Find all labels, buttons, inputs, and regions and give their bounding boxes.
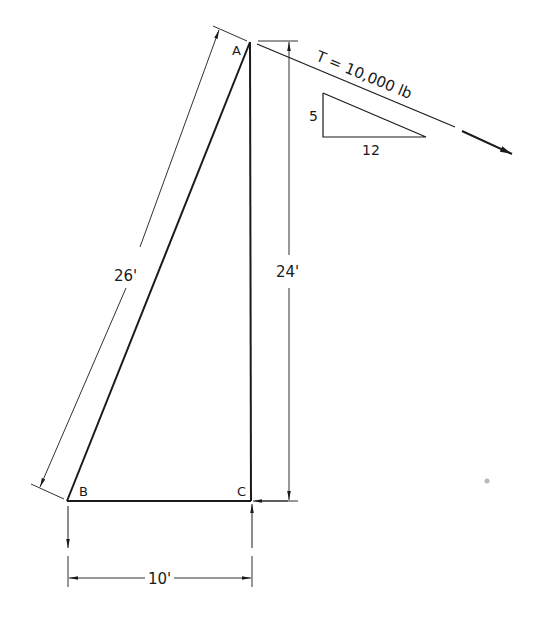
dimension-26ft bbox=[31, 26, 247, 499]
dimension-26-label: 26' bbox=[114, 267, 137, 285]
force-line bbox=[257, 44, 455, 127]
member-ab bbox=[67, 42, 250, 501]
slope-triangle bbox=[323, 93, 426, 137]
force-arrow bbox=[462, 131, 512, 154]
point-a-label: A bbox=[232, 43, 241, 58]
truss-members bbox=[67, 42, 251, 501]
dimension-10-label: 10' bbox=[148, 570, 171, 588]
truss-diagram: T = 10,000 lb 5 12 A B C 26' 24' 10' bbox=[0, 0, 543, 622]
reactions bbox=[68, 504, 252, 548]
slope-run-label: 12 bbox=[362, 142, 380, 158]
smudge-mark bbox=[485, 479, 490, 484]
member-ac bbox=[250, 42, 251, 501]
dimension-24-label: 24' bbox=[276, 263, 299, 281]
point-b-label: B bbox=[79, 484, 88, 499]
slope-rise-label: 5 bbox=[309, 108, 318, 124]
point-c-label: C bbox=[237, 484, 246, 499]
